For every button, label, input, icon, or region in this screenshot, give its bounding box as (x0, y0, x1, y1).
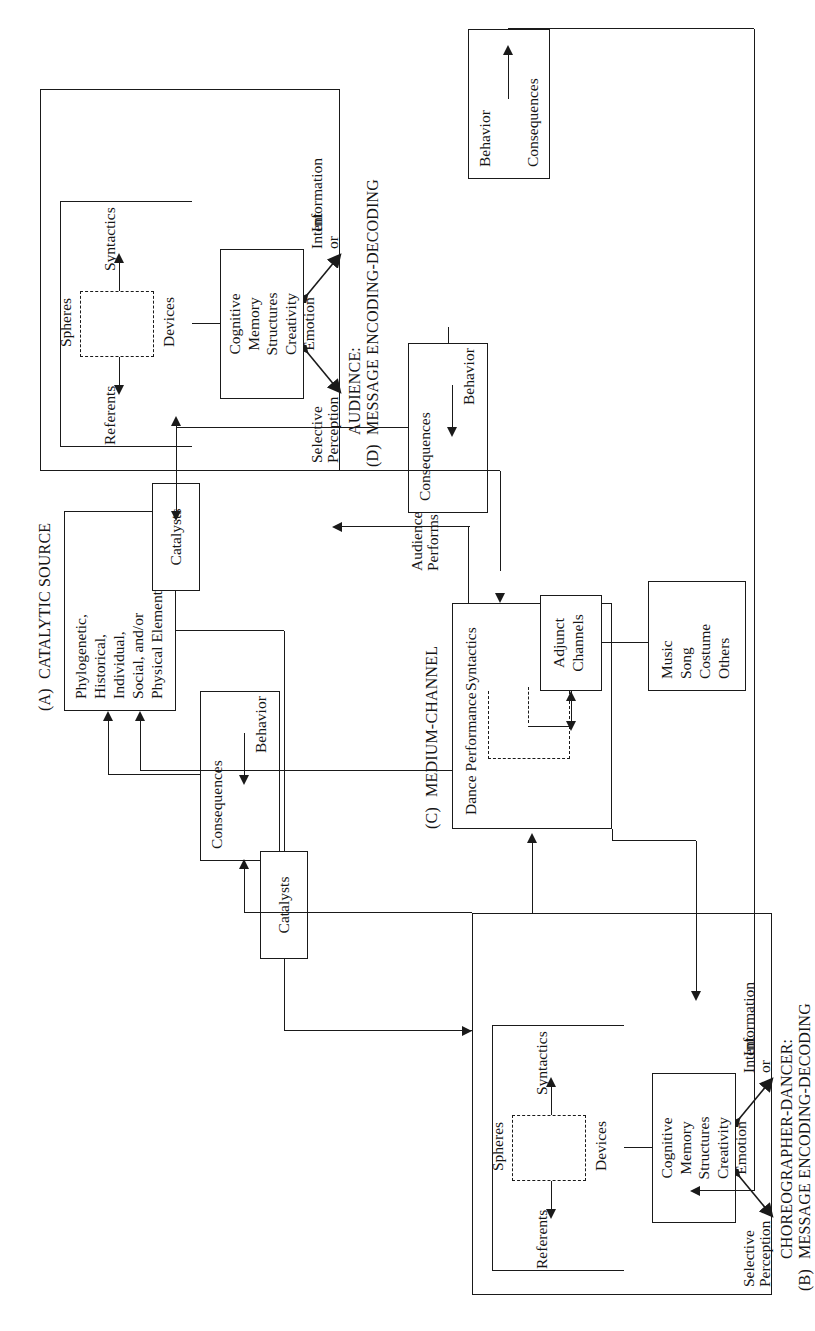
medium-to-catalytic-arrow (135, 711, 145, 721)
d-arrow-to-referents-head (114, 385, 124, 395)
b-arrow-to-syntactics-line (551, 1087, 552, 1115)
d-consequences-to-a-line (176, 428, 177, 511)
b-arrow-to-syntactics-head (546, 1077, 556, 1087)
consequences-label-left: Consequences (208, 760, 226, 849)
adjunct-media-to-channels-line (602, 642, 648, 643)
medium-to-catalytic-riser (140, 770, 452, 771)
medium-referents-feedback-arrow (691, 991, 701, 1001)
d-rail-stem (192, 323, 220, 324)
dance-performance-label: Dance Performance (462, 692, 480, 815)
section-d-tag: (D) (364, 444, 383, 467)
b-information-label: Information (740, 982, 758, 1056)
behavior-label-right: Behavior (460, 348, 478, 405)
d-frame-to-behavior-line (448, 327, 449, 343)
b-arrow-to-referents-line (551, 1181, 552, 1209)
catalysts-right-to-d-arrow (171, 416, 181, 426)
medium-referents-feedback-line (696, 841, 697, 991)
catalysts-left-to-b-line (284, 959, 285, 1031)
b-frame-to-behavior-arrow (239, 859, 249, 869)
d-arrow-to-referents-line (119, 357, 120, 385)
outbound-feedback-riser (508, 28, 754, 29)
b-selective-perception-arrow (736, 1169, 776, 1223)
outbound-feedback-line (754, 29, 755, 1191)
section-a-label: CATALYTIC SOURCE (36, 523, 55, 679)
catalysts-left-to-b-arrow (462, 1026, 472, 1036)
behavior-consequences-arrow-head (503, 45, 513, 55)
section-d-label-2: MESSAGE ENCODING-DECODING (364, 179, 383, 435)
b-frame-behavior-riser (244, 912, 472, 913)
d-devices-label: Devices (160, 297, 178, 347)
d-information-label: Information (308, 158, 326, 232)
catalytic-to-catalysts-left-riser (176, 630, 284, 631)
consequences-arrow-left-head (239, 775, 249, 785)
consequences-arrow-right-head (447, 427, 457, 437)
medium-adjunct-riser (528, 726, 572, 727)
section-c-tag: (C) (423, 807, 442, 829)
medium-channel-dashed-box (488, 691, 570, 759)
b-spheres-label: Spheres (489, 1122, 507, 1171)
consequences-label-right: Consequences (416, 412, 434, 501)
behavior-label-left: Behavior (252, 696, 270, 753)
catalysts-left-to-b-riser (284, 1030, 472, 1031)
consequences-outbound-label: Consequences (524, 78, 542, 167)
performs-label: Performs (424, 514, 442, 571)
medium-syntactics-label: Syntactics (462, 627, 480, 691)
outbound-feedback-arrow (690, 1186, 700, 1196)
medium-to-audience-arrow (332, 522, 342, 532)
audience-feedback-line (500, 471, 501, 571)
d-consequences-to-a-riser (176, 427, 408, 428)
d-spheres-devices-dashed-box (80, 291, 154, 357)
b-perception-label: Perception (756, 1221, 774, 1287)
catalytic-to-catalysts-left-line (284, 631, 285, 851)
medium-referents-feedback-riser (612, 840, 696, 841)
section-a-tag: (A) (36, 688, 55, 711)
section-d-label: AUDIENCE: (346, 347, 365, 435)
medium-to-audience-riser (342, 526, 470, 527)
section-b-label: CHOREOGRAPHER-DANCER: (778, 1039, 797, 1259)
section-c-label: MEDIUM-CHANNEL (423, 646, 442, 797)
adjunct-channels-text: Adjunct Channels (550, 595, 587, 691)
page-edge-artifact (706, 11, 715, 13)
d-selective-perception-arrow (304, 345, 344, 399)
b-consequences-to-a-riser (108, 774, 200, 775)
catalytic-source-text: Phylogenetic, Historical, Individual, So… (72, 585, 167, 699)
b-consequences-to-a-line (108, 717, 109, 775)
d-arrow-to-syntactics-line (119, 263, 120, 291)
b-rail-stem (624, 1147, 652, 1148)
medium-channel-dashed-stub (528, 687, 529, 723)
d-perception-label: Perception (324, 397, 342, 463)
consequences-arrow-left-line (244, 733, 245, 775)
choreographer-to-medium-arrow (527, 833, 537, 843)
medium-referents-feedback-top (612, 829, 613, 841)
section-b-tag: (B) (796, 1269, 815, 1291)
d-spheres-label: Spheres (57, 298, 75, 347)
b-spheres-devices-dashed-box (512, 1115, 586, 1181)
d-arrow-to-syntactics-head (114, 253, 124, 263)
medium-to-audience-line (468, 527, 469, 603)
outbound-feedback-drop (700, 1190, 754, 1191)
audience-feedback-arrow (495, 593, 505, 603)
d-intent-information-arrow (304, 247, 344, 303)
b-devices-label: Devices (592, 1121, 610, 1171)
medium-adjunct-arrow-right (566, 691, 576, 701)
behavior-consequences-arrow-line (508, 55, 509, 99)
adjunct-media-text: Music Song Costume Others (658, 624, 734, 679)
behavior-outbound-label: Behavior (476, 110, 494, 167)
audience-feedback-riser (340, 470, 500, 471)
b-or-label: or (756, 1060, 774, 1073)
section-b-label-2: MESSAGE ENCODING-DECODING (796, 1003, 815, 1259)
b-intent-information-arrow (736, 1071, 776, 1127)
catalysts-label-left: Catalysts (275, 851, 293, 959)
b-consequences-to-a-arrow (103, 711, 113, 721)
d-or-label: or (324, 236, 342, 249)
d-consequences-to-a-arrow (171, 511, 181, 521)
consequences-arrow-right-line (452, 385, 453, 427)
medium-to-catalytic-line (140, 719, 141, 771)
choreographer-to-medium-line (532, 843, 533, 913)
b-arrow-to-referents-head (546, 1209, 556, 1219)
